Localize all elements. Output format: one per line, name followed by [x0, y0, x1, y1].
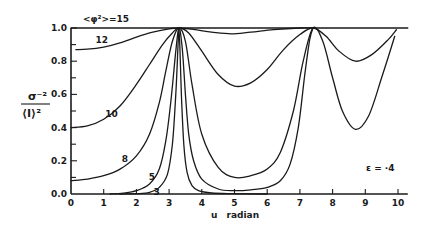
curve-phi2-8	[71, 27, 395, 180]
y-tick-label: 0.6	[51, 89, 67, 99]
curve-label-10: 10	[105, 109, 118, 119]
line-chart: 0123456789100.00.20.40.60.81.0 <φ²>=15 ε…	[0, 0, 430, 231]
x-tick-label: 2	[133, 198, 139, 208]
x-tick-label: 3	[166, 198, 172, 208]
y-tick-label: 0.0	[51, 189, 67, 199]
curve-label-12: 12	[96, 35, 109, 45]
x-tick-label: 0	[68, 198, 74, 208]
curve-label-8: 8	[122, 154, 128, 164]
curve-phi2-3	[120, 28, 267, 194]
epsilon-annotation: ε = ·4	[366, 163, 395, 173]
curve-phi2-12	[76, 28, 313, 50]
y-axis-label-denominator: ⟨I⟩²	[22, 107, 41, 120]
x-axis-label: u radian	[211, 210, 259, 220]
x-tick-label: 7	[297, 198, 303, 208]
y-tick-label: 0.2	[51, 156, 67, 166]
x-tick-label: 10	[392, 198, 405, 208]
curve-phi2-5	[110, 28, 313, 194]
curve-label-15: <φ²>=15	[83, 14, 129, 24]
y-axis-label-numerator: σ⁻²	[28, 90, 47, 103]
x-tick-label: 8	[329, 198, 335, 208]
curve-label-5: 5	[149, 172, 155, 182]
x-tick-label: 5	[231, 198, 237, 208]
chart-container: 0123456789100.00.20.40.60.81.0 <φ²>=15 ε…	[0, 0, 430, 231]
curves	[71, 27, 408, 194]
curve-label-3: 3	[153, 187, 159, 197]
x-tick-label: 4	[199, 198, 205, 208]
x-tick-label: 9	[362, 198, 368, 208]
x-tick-label: 1	[101, 198, 107, 208]
y-tick-label: 1.0	[51, 23, 67, 33]
y-tick-label: 0.8	[51, 56, 67, 66]
y-tick-label: 0.4	[51, 123, 67, 133]
x-tick-label: 6	[264, 198, 270, 208]
labels: <φ²>=15 ε = ·4 u radian σ⁻² ⟨I⟩² 1210853	[21, 14, 395, 220]
